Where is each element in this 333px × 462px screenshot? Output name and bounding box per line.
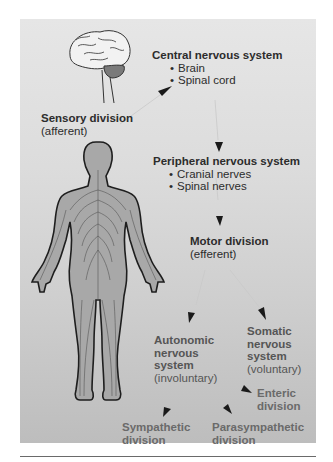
pns-item-spinal: Spinal nerves bbox=[167, 180, 300, 193]
motor-sub: (efferent) bbox=[190, 248, 269, 261]
brain-icon bbox=[70, 31, 130, 103]
arrow-autonomic-to-enteric bbox=[241, 385, 252, 393]
node-somatic-nervous-system: Somatic nervous system (voluntary) bbox=[247, 325, 301, 375]
node-central-nervous-system: Central nervous system Brain Spinal cord bbox=[152, 49, 282, 87]
human-body-icon bbox=[32, 142, 164, 400]
somatic-sub: (voluntary) bbox=[247, 363, 301, 376]
cns-item-brain: Brain bbox=[168, 62, 282, 75]
pns-item-cranial: Cranial nerves bbox=[167, 168, 300, 181]
node-sensory-division: Sensory division (afferent) bbox=[41, 112, 133, 137]
somatic-line-1: Somatic bbox=[247, 325, 301, 338]
node-motor-division: Motor division (efferent) bbox=[190, 235, 269, 260]
somatic-line-2: nervous bbox=[247, 338, 301, 351]
node-parasympathetic-division: Parasympathetic division bbox=[212, 421, 304, 446]
enteric-line-2: division bbox=[257, 400, 300, 413]
arrow-motor-to-autonomic bbox=[188, 312, 195, 323]
arrow-motor-to-somatic bbox=[258, 307, 266, 320]
arrow-sensory-to-cns bbox=[158, 86, 172, 96]
autonomic-line-3: system bbox=[154, 359, 217, 372]
pns-title: Peripheral nervous system bbox=[153, 155, 300, 168]
sensory-sub: (afferent) bbox=[41, 125, 133, 138]
parasympathetic-line-1: Parasympathetic bbox=[212, 421, 304, 434]
sympathetic-line-1: Sympathetic bbox=[122, 421, 190, 434]
arrow-autonomic-to-sympathetic bbox=[163, 407, 171, 417]
autonomic-line-2: nervous bbox=[154, 347, 217, 360]
enteric-line-1: Enteric bbox=[257, 387, 300, 400]
sympathetic-line-2: division bbox=[122, 434, 190, 447]
cns-title: Central nervous system bbox=[152, 49, 282, 62]
arrow-autonomic-to-parasympathetic bbox=[223, 404, 232, 414]
node-enteric-division: Enteric division bbox=[257, 387, 300, 412]
motor-title: Motor division bbox=[190, 235, 269, 248]
sensory-title: Sensory division bbox=[41, 112, 133, 125]
node-peripheral-nervous-system: Peripheral nervous system Cranial nerves… bbox=[153, 155, 300, 193]
arrow-pns-to-motor bbox=[216, 216, 223, 226]
autonomic-line-1: Autonomic bbox=[154, 334, 217, 347]
cns-item-spinal-cord: Spinal cord bbox=[168, 74, 282, 87]
node-sympathetic-division: Sympathetic division bbox=[122, 421, 190, 446]
parasympathetic-line-2: division bbox=[212, 434, 304, 447]
autonomic-sub: (involuntary) bbox=[154, 372, 217, 385]
node-autonomic-nervous-system: Autonomic nervous system (involuntary) bbox=[154, 334, 217, 384]
somatic-line-3: system bbox=[247, 350, 301, 363]
arrow-cns-to-pns bbox=[215, 142, 223, 152]
